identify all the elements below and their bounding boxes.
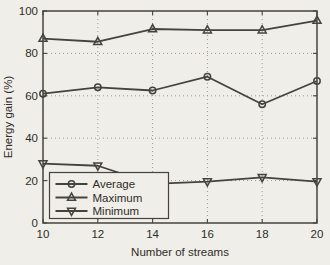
legend-label: Average — [93, 178, 136, 190]
series-maximum — [39, 16, 321, 44]
y-tick-label: 20 — [25, 175, 38, 187]
x-tick-label: 20 — [311, 228, 324, 240]
x-axis-label: Number of streams — [131, 246, 229, 258]
x-tick-label: 14 — [146, 228, 159, 240]
scanned-chart-figure: 101214161820020406080100 Number of strea… — [0, 0, 330, 265]
energy-gain-line-chart: 101214161820020406080100 Number of strea… — [0, 0, 330, 265]
y-tick-label: 60 — [25, 90, 38, 102]
y-tick-label: 80 — [25, 47, 38, 59]
x-tick-label: 12 — [91, 228, 104, 240]
legend-label: Maximum — [93, 192, 143, 204]
series-average — [40, 74, 320, 108]
series-line — [43, 77, 317, 105]
legend: AverageMaximumMinimum — [50, 173, 169, 219]
x-tick-label: 18 — [256, 228, 269, 240]
series-line — [43, 21, 317, 42]
legend-label: Minimum — [93, 205, 140, 217]
y-tick-label: 40 — [25, 132, 38, 144]
y-tick-label: 0 — [32, 217, 38, 229]
y-axis-label: Energy gain (%) — [2, 76, 14, 159]
x-tick-label: 10 — [37, 228, 50, 240]
y-tick-label: 100 — [19, 5, 38, 17]
x-tick-label: 16 — [201, 228, 214, 240]
series-group — [39, 16, 321, 188]
